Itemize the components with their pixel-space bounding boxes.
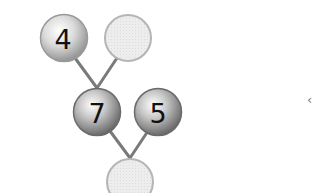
- node-value: 5: [149, 98, 166, 129]
- edge-4-to-7: [75, 58, 97, 88]
- edge-5-to-bottom: [130, 131, 148, 158]
- edge-7-to-bottom: [110, 131, 130, 158]
- node-value: 7: [88, 98, 105, 129]
- chevron-left-icon: ‹: [307, 92, 312, 107]
- node-top-left: 4: [41, 15, 88, 62]
- node-top-right-empty[interactable]: [105, 15, 151, 61]
- number-bond-diagram: 4 7 5: [0, 0, 315, 193]
- node-value: 4: [54, 24, 71, 55]
- node-bottom-empty[interactable]: [107, 159, 153, 193]
- edge-empty-to-7: [97, 58, 117, 88]
- node-middle-right: 5: [135, 89, 182, 136]
- node-middle-left: 7: [74, 89, 121, 136]
